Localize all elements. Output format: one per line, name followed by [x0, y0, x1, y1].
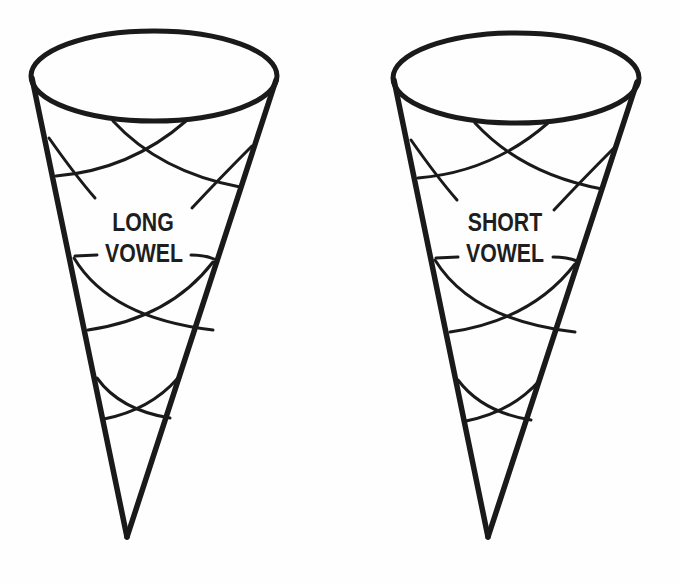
waffle-line [435, 260, 575, 332]
cone-rim [31, 31, 277, 121]
long-vowel-label-line1: LONG [112, 207, 174, 237]
waffle-line [553, 257, 577, 261]
short-vowel-cone [393, 33, 639, 537]
long-vowel-label-line2: VOWEL [105, 238, 183, 268]
cone-left-wall [32, 78, 127, 537]
waffle-line [74, 258, 213, 330]
short-vowel-label-line1: SHORT [468, 207, 543, 237]
cone-rim [393, 33, 639, 123]
cone-left-wall [394, 80, 488, 537]
worksheet-canvas: LONG VOWEL SHORT VOWEL [0, 0, 680, 583]
short-vowel-label-line2: VOWEL [466, 238, 544, 268]
waffle-line [191, 255, 214, 259]
waffle-line [75, 255, 97, 256]
long-vowel-cone [31, 31, 277, 537]
waffle-line [97, 378, 170, 418]
waffle-line [436, 257, 458, 258]
waffle-line [88, 262, 213, 330]
